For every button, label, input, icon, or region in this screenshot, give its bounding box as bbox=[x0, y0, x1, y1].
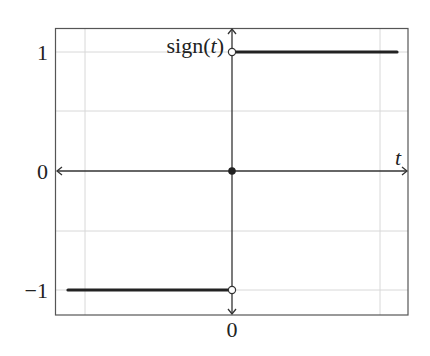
func-close: ) bbox=[217, 33, 224, 58]
y-tick-0: 0 bbox=[37, 159, 48, 184]
x-tick-0: 0 bbox=[227, 317, 238, 342]
func-name: sign( bbox=[167, 33, 211, 58]
open-point-bottom bbox=[228, 286, 235, 293]
y-tick-minus-1: −1 bbox=[25, 278, 48, 303]
filled-point-origin bbox=[228, 167, 236, 175]
y-tick-1: 1 bbox=[37, 40, 48, 65]
y-axis-label: sign(t) bbox=[167, 33, 224, 58]
open-point-top bbox=[228, 48, 235, 55]
sign-function-plot: 1 0 −1 0 t sign(t) bbox=[0, 0, 430, 356]
x-axis-label: t bbox=[395, 145, 402, 170]
